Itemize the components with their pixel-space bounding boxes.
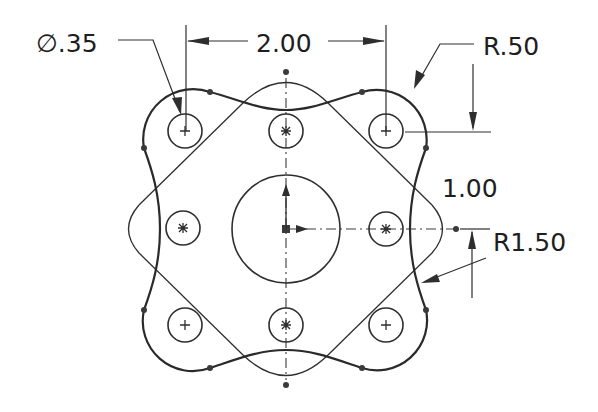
tangent-point [207, 365, 213, 371]
dim-arrow-left-icon [187, 37, 209, 45]
tangent-point [141, 145, 147, 151]
asterisk-mark-icon [281, 320, 291, 330]
tangent-point [423, 307, 429, 313]
dim-arrow-down-icon [469, 112, 477, 131]
horizontal-dimension-label[interactable]: 2.00 [256, 29, 312, 58]
asterisk-mark-icon [381, 224, 391, 234]
dim-arrow-right-icon [363, 37, 385, 45]
dim-arrow-up-icon [468, 230, 476, 249]
side-radius-label[interactable]: R1.50 [493, 228, 566, 257]
diamond-edge-bottom-left [139, 253, 243, 355]
dimension-corner-radius[interactable]: R.50 [414, 32, 539, 89]
drawing-canvas: ∅.35 2.00 R.50 1.00 [0, 0, 598, 412]
diameter-label[interactable]: ∅.35 [36, 29, 98, 58]
center-lines [282, 69, 459, 388]
tangent-point [359, 89, 365, 95]
dimension-side-radius[interactable]: R1.50 [421, 228, 566, 283]
tangent-point [359, 365, 365, 371]
tangent-point [207, 89, 213, 95]
diamond-arc-left [129, 205, 140, 253]
origin-x-arrow-icon [296, 225, 308, 233]
corner-radius-label[interactable]: R.50 [483, 32, 539, 61]
centerline-endpoint-top [283, 69, 289, 75]
diamond-edge-bottom-right [328, 253, 432, 355]
diamond-edge-top-left [139, 103, 243, 205]
sketch-svg: ∅.35 2.00 R.50 1.00 [0, 0, 598, 412]
plus-mark-icon [180, 126, 190, 136]
corner-radius-leader [417, 44, 474, 84]
asterisk-mark-icon [178, 223, 188, 233]
plus-mark-icon [180, 320, 190, 330]
diameter-leader [118, 40, 180, 112]
centerline-endpoint-right [453, 226, 459, 232]
tangent-point [423, 145, 429, 151]
dimension-vertical-spacing[interactable]: 1.00 [405, 64, 498, 298]
plus-mark-icon [381, 320, 391, 330]
origin-y-arrow-icon [282, 184, 290, 196]
leader-arrow-icon [172, 97, 182, 115]
centerline-endpoint-bottom [283, 382, 289, 388]
diamond-edge-top-right [328, 103, 432, 205]
asterisk-mark-icon [281, 126, 291, 136]
vertical-dimension-label[interactable]: 1.00 [442, 174, 498, 203]
leader-arrow-icon [421, 274, 440, 283]
tangent-point [141, 307, 147, 313]
